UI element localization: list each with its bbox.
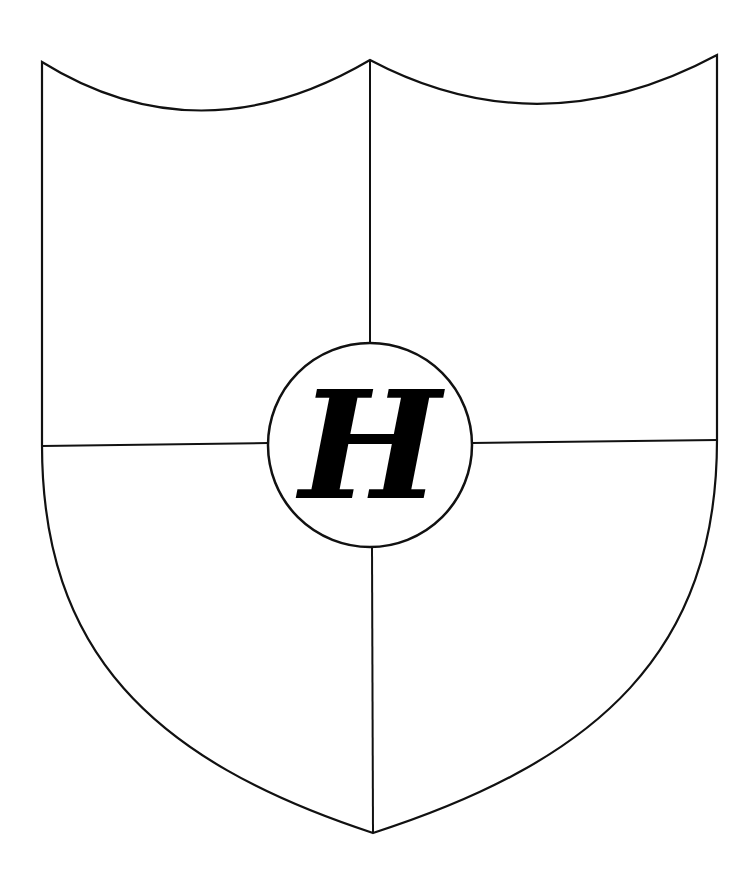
emblem-letter: H xyxy=(268,343,472,547)
vertical-divider-bottom xyxy=(372,547,373,833)
